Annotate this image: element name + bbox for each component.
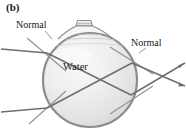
water-sphere [43, 33, 137, 127]
panel-label: (b) [6, 1, 19, 13]
normal-left-leader [45, 31, 52, 39]
water-label: Water [63, 61, 88, 72]
lower-incident-ray [1, 108, 47, 112]
normal-right-label: Normal [131, 37, 162, 48]
ray-arrowheads [178, 63, 185, 87]
lower-ray-arrowhead [179, 83, 186, 87]
normal-right-leader [139, 48, 146, 53]
lower-exit-ray [132, 63, 185, 86]
normal-left-label: Normal [16, 19, 47, 30]
flask-neck [76, 21, 93, 27]
upper-exit-ray [131, 63, 185, 95]
